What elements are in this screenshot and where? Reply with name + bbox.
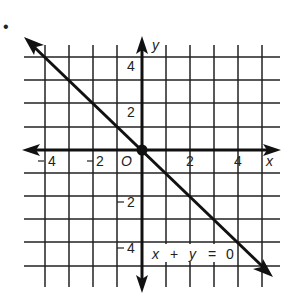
y-tick-4: 4 [127,58,135,74]
y-tick-2: 2 [127,104,135,120]
eq-plus: + [170,246,178,262]
eq-x: x [151,246,160,262]
equation-label: x + y = 0 [148,244,234,262]
x-axis-label: x [265,153,274,169]
origin-point [137,145,148,156]
y-axis-label: y [151,37,160,53]
eq-zero: 0 [226,246,234,262]
coordinate-plane: • y x O [0,0,298,298]
origin-label: O [121,153,132,169]
eq-y: y [188,246,197,262]
line-x-plus-y-equals-0 [32,45,262,266]
x-tick--2: 2 [96,153,104,169]
x-tick--4: 4 [48,153,56,169]
x-tick-2: 2 [186,153,194,169]
eq-equals: = [208,246,216,262]
bullet-marker: • [3,18,9,35]
y-tick--2: 2 [127,194,135,210]
y-tick--4: 4 [127,240,135,256]
x-tick-4: 4 [234,153,242,169]
